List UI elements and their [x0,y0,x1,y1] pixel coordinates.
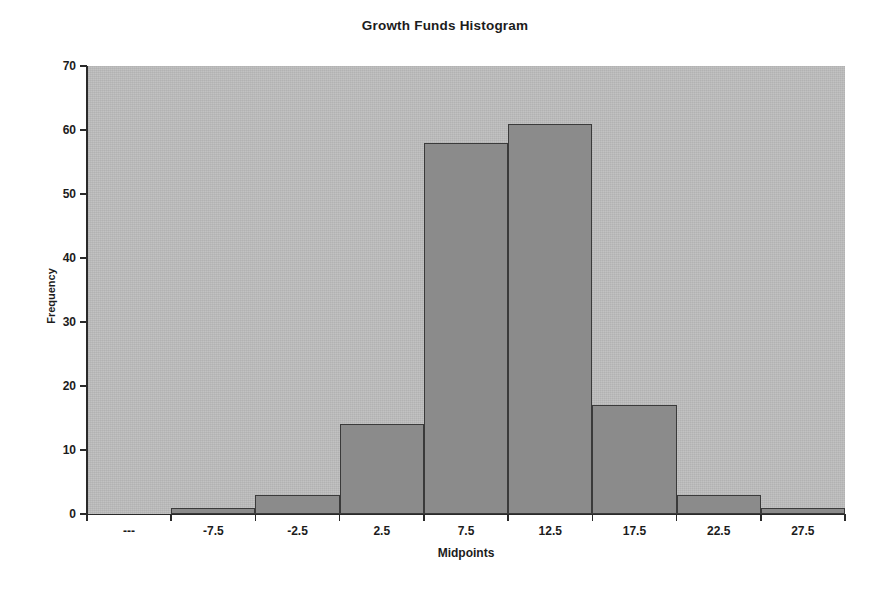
y-tick-label: 70 [42,59,76,73]
x-tick-label: 17.5 [589,524,679,538]
x-tick-mark [844,514,846,521]
x-tick-label: 2.5 [337,524,427,538]
x-tick-label: 7.5 [421,524,511,538]
y-tick-mark [80,257,87,259]
x-tick-mark [86,514,88,521]
y-tick-mark [80,385,87,387]
x-tick-mark [339,514,341,521]
y-tick-mark [80,449,87,451]
y-axis-line [86,66,88,515]
bar-12.5 [508,124,592,514]
y-tick-label: 10 [42,443,76,457]
x-tick-label: -2.5 [253,524,343,538]
x-tick-mark [423,514,425,521]
bar--2.5 [255,495,339,514]
x-tick-mark [676,514,678,521]
bar-2.5 [340,424,424,514]
x-tick-label: -7.5 [168,524,258,538]
x-tick-label: --- [84,524,174,538]
y-tick-label: 0 [42,507,76,521]
y-tick-label: 60 [42,123,76,137]
y-tick-mark [80,129,87,131]
bars-layer [87,66,845,514]
y-tick-mark [80,321,87,323]
x-tick-mark [255,514,257,521]
y-tick-mark [80,65,87,67]
x-tick-label: 12.5 [505,524,595,538]
y-tick-label: 50 [42,187,76,201]
y-tick-mark [80,193,87,195]
x-axis-title: Midpoints [87,546,845,560]
x-tick-label: 27.5 [758,524,848,538]
bar-22.5 [677,495,761,514]
plot-area [87,66,845,514]
histogram-chart: Growth Funds Histogram 010203040506070 -… [0,0,890,590]
x-axis-line [86,514,846,516]
y-axis-title: Frequency [45,236,57,356]
x-tick-label: 22.5 [674,524,764,538]
x-tick-mark [507,514,509,521]
bar-7.5 [424,143,508,514]
x-tick-mark [170,514,172,521]
x-tick-mark [760,514,762,521]
chart-title: Growth Funds Histogram [0,18,890,33]
y-tick-label: 20 [42,379,76,393]
bar-17.5 [592,405,676,514]
x-tick-mark [592,514,594,521]
